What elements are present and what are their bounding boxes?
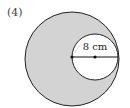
point-center (93, 55, 96, 58)
point-left (70, 55, 73, 58)
shaded-circle-diagram: 8 cm (0, 0, 130, 108)
dimension-label: 8 cm (83, 41, 108, 52)
